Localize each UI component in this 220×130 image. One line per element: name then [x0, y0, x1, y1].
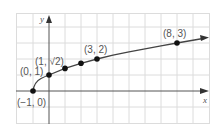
- label-1-sqrt2: (1, √2): [35, 56, 64, 67]
- y-axis-arrow-icon: [46, 15, 52, 23]
- curve-arrow-icon: [200, 35, 209, 41]
- point-m1-0: [30, 88, 36, 94]
- chart-svg: y x (−1, 0) (0, 1) (1, √2) (3, 2) (8, 3): [0, 0, 220, 130]
- point-3-2: [94, 56, 100, 62]
- point-0-1: [46, 72, 52, 78]
- point-2-sqrt3: [78, 61, 84, 67]
- point-8-3: [174, 40, 180, 46]
- label-8-3: (8, 3): [163, 28, 186, 39]
- x-axis-label: x: [202, 95, 207, 105]
- label-0-1: (0, 1): [20, 66, 43, 77]
- label-m1-0: (−1, 0): [17, 97, 46, 108]
- label-3-2: (3, 2): [84, 44, 107, 55]
- x-axis-arrow-icon: [200, 88, 209, 94]
- y-axis-label: y: [39, 14, 44, 24]
